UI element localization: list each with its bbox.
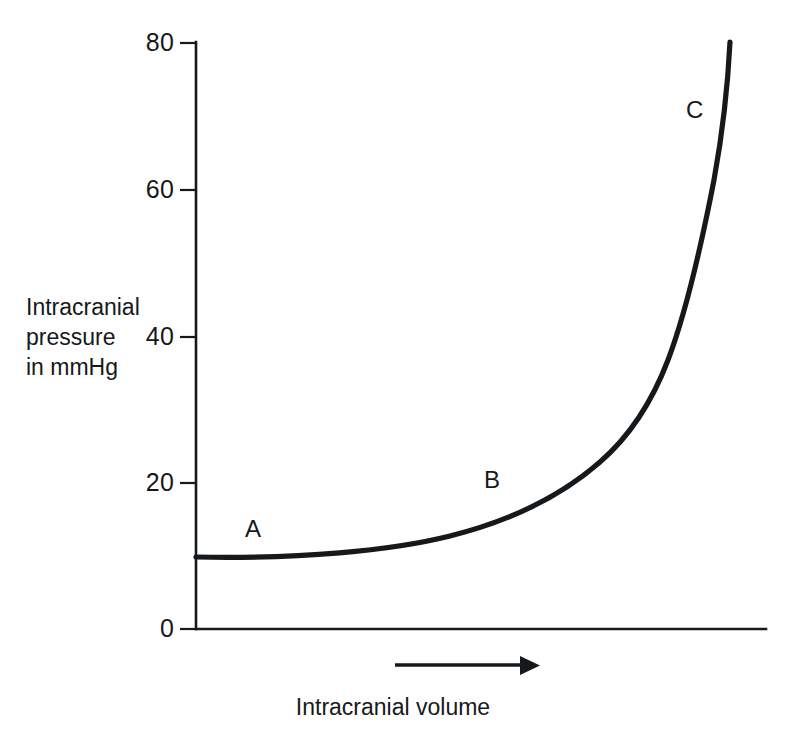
y-tick-label-80: 80: [118, 30, 174, 55]
y-tick-label-20: 20: [118, 470, 174, 495]
y-tick-label-60: 60: [118, 177, 174, 202]
x-axis-title: Intracranial volume: [0, 695, 786, 720]
annotation-label-c: C: [686, 98, 703, 122]
annotation-label-a: A: [245, 517, 261, 541]
annotation-label-b: B: [484, 468, 500, 492]
pressure-volume-curve: [196, 42, 730, 557]
y-axis-title: Intracranial pressure in mmHg: [26, 292, 140, 382]
y-tick-label-0: 0: [118, 616, 174, 641]
chart-figure: 80 60 40 20 0 Intracranial pressure in m…: [0, 0, 786, 735]
volume-arrow-head: [520, 656, 540, 675]
